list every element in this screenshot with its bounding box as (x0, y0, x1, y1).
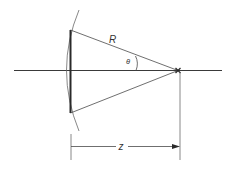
angle-arc (136, 56, 138, 71)
distance-label: z (118, 141, 124, 152)
arrowhead-icon (172, 144, 180, 149)
upper-ray-R (71, 30, 179, 71)
radius-label: R (109, 34, 116, 45)
lower-ray (71, 71, 179, 114)
angle-label: θ (126, 57, 130, 66)
geometry-diagram: R θ z (0, 0, 234, 173)
